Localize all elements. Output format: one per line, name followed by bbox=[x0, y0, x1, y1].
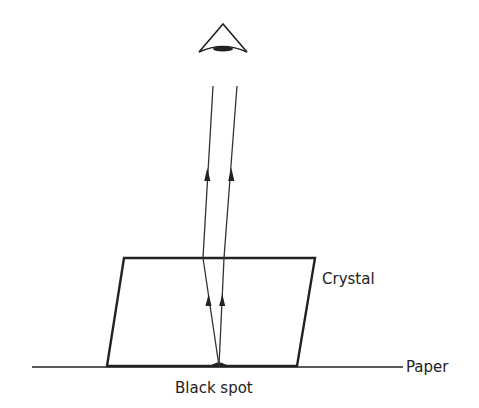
crystal-refraction-diagram: Crystal Paper Black spot bbox=[0, 0, 479, 408]
left-ray bbox=[203, 86, 219, 366]
arrow-up-icon bbox=[228, 168, 234, 181]
arrow-up-icon bbox=[204, 168, 210, 181]
paper-label: Paper bbox=[406, 358, 449, 376]
eye-icon bbox=[199, 24, 247, 52]
right-ray bbox=[219, 86, 237, 366]
light-rays bbox=[203, 86, 237, 366]
arrow-up-icon bbox=[206, 294, 212, 306]
black-spot-label: Black spot bbox=[175, 379, 253, 397]
arrowheads-lower bbox=[206, 294, 226, 306]
arrow-up-icon bbox=[219, 294, 225, 306]
crystal-label: Crystal bbox=[322, 270, 375, 288]
